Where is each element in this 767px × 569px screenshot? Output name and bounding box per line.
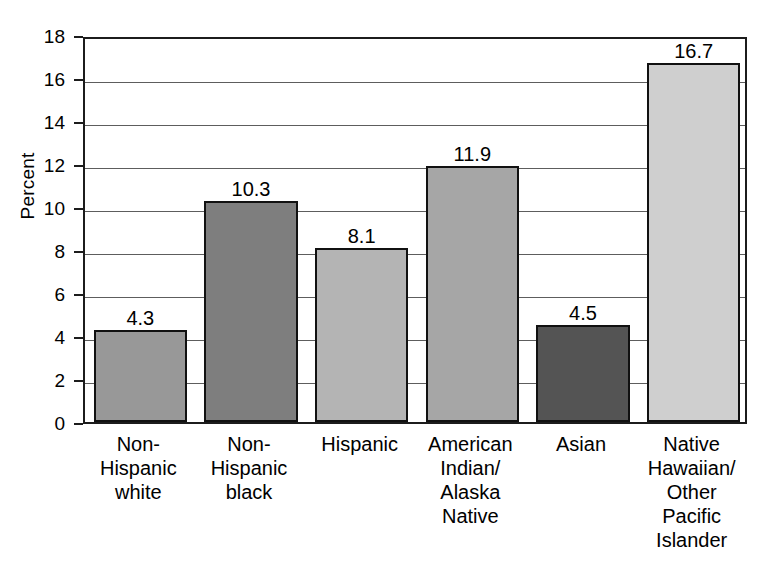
category-label-line: Alaska <box>415 480 526 504</box>
y-tick-label: 6 <box>31 285 65 304</box>
y-tick-mark <box>74 36 83 38</box>
bar: 16.7 <box>647 63 741 422</box>
category-label-line: Native <box>636 432 747 456</box>
category-label-line: black <box>194 480 305 504</box>
bar: 10.3 <box>204 201 298 422</box>
category-label-line: Hispanic <box>304 432 415 456</box>
y-tick-mark <box>74 79 83 81</box>
y-tick-label: 16 <box>31 70 65 89</box>
category-label: Hispanic <box>304 432 415 456</box>
bar-value-label: 11.9 <box>454 144 491 164</box>
y-tick-label: 10 <box>31 199 65 218</box>
category-label-line: Non- <box>83 432 194 456</box>
category-label-line: Islander <box>636 528 747 552</box>
category-label-line: Indian/ <box>415 456 526 480</box>
category-label: NativeHawaiian/OtherPacificIslander <box>636 432 747 552</box>
y-tick-mark <box>74 251 83 253</box>
bar: 11.9 <box>426 166 520 422</box>
y-tick-mark <box>74 294 83 296</box>
category-label-line: Hispanic <box>83 456 194 480</box>
y-tick-mark <box>74 423 83 425</box>
bar: 8.1 <box>315 248 409 422</box>
bar: 4.3 <box>94 330 188 422</box>
category-label: Asian <box>526 432 637 456</box>
category-label: Non-Hispanicwhite <box>83 432 194 504</box>
bar-value-label: 10.3 <box>232 179 271 199</box>
bar: 4.5 <box>536 325 630 422</box>
y-tick-mark <box>74 380 83 382</box>
x-axis-category-labels: Non-HispanicwhiteNon-HispanicblackHispan… <box>83 432 747 562</box>
category-label-line: Native <box>415 504 526 528</box>
y-tick-label: 0 <box>31 414 65 433</box>
y-tick-label: 2 <box>31 371 65 390</box>
y-tick-label: 14 <box>31 113 65 132</box>
category-label-line: Pacific <box>636 504 747 528</box>
bar-value-label: 8.1 <box>348 226 376 246</box>
category-label-line: Non- <box>194 432 305 456</box>
bar-chart-figure: Percent 181614121086420 4.310.38.111.94.… <box>0 0 767 569</box>
y-tick-label: 12 <box>31 156 65 175</box>
category-label-line: white <box>83 480 194 504</box>
category-label-line: Hawaiian/ <box>636 456 747 480</box>
y-tick-mark <box>74 337 83 339</box>
category-label-line: Hispanic <box>194 456 305 480</box>
plot-area: 4.310.38.111.94.516.7 <box>83 37 747 424</box>
bar-value-label: 4.3 <box>126 308 154 328</box>
bars-layer: 4.310.38.111.94.516.7 <box>85 39 745 422</box>
category-label: Non-Hispanicblack <box>194 432 305 504</box>
category-label-line: American <box>415 432 526 456</box>
y-tick-mark <box>74 208 83 210</box>
bar-value-label: 16.7 <box>674 41 713 61</box>
y-tick-mark <box>74 122 83 124</box>
y-tick-label: 8 <box>31 242 65 261</box>
bar-value-label: 4.5 <box>569 303 597 323</box>
category-label: AmericanIndian/AlaskaNative <box>415 432 526 528</box>
y-axis-title: Percent <box>17 116 39 256</box>
category-label-line: Other <box>636 480 747 504</box>
y-tick-label: 4 <box>31 328 65 347</box>
y-tick-label: 18 <box>31 27 65 46</box>
category-label-line: Asian <box>526 432 637 456</box>
y-tick-mark <box>74 165 83 167</box>
